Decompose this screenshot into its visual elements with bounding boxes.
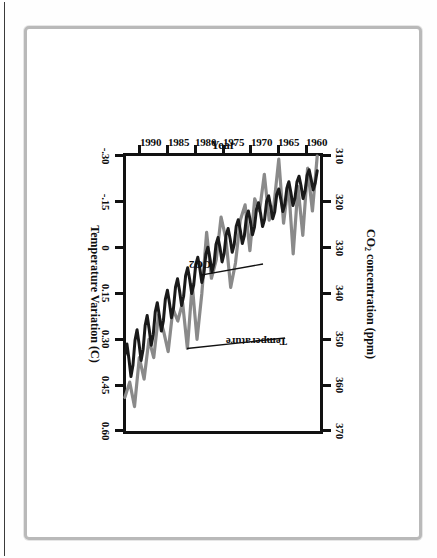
axis-tick bbox=[323, 200, 331, 203]
co2-tick-label: 360 bbox=[334, 377, 346, 393]
co2-axis-title: CO2 concentration (ppm) bbox=[363, 229, 378, 359]
co2-axis-title-prefix: CO bbox=[364, 229, 378, 247]
temperature-annotation-label: Temperature bbox=[226, 336, 287, 348]
co2-tick-label: 330 bbox=[334, 240, 346, 256]
year-tick-label: 1970 bbox=[251, 136, 272, 148]
year-tick-label: 1985 bbox=[168, 136, 189, 148]
temperature-tick-label: -.15 bbox=[100, 194, 112, 211]
axis-tick bbox=[115, 200, 123, 203]
axis-tick bbox=[115, 338, 123, 341]
axis-tick bbox=[323, 338, 331, 341]
year-tick-label: 1960 bbox=[306, 136, 327, 148]
plot-curves bbox=[123, 147, 329, 434]
temperature-tick-label: -.30 bbox=[100, 148, 112, 165]
figure-page: Temperature Variation (C) CO2 concentrat… bbox=[0, 0, 437, 558]
year-tick-label: 1975 bbox=[223, 136, 244, 148]
axis-tick bbox=[115, 246, 123, 249]
year-tick-label: 1965 bbox=[278, 136, 299, 148]
axis-tick bbox=[115, 155, 123, 158]
axis-tick bbox=[323, 155, 331, 158]
axis-tick bbox=[323, 292, 331, 295]
year-tick-label: 1990 bbox=[140, 136, 161, 148]
temperature-tick-label: 0.15 bbox=[100, 284, 112, 302]
axis-tick bbox=[115, 384, 123, 387]
figure-frame: Temperature Variation (C) CO2 concentrat… bbox=[24, 26, 422, 540]
axis-tick bbox=[323, 246, 331, 249]
axis-tick bbox=[323, 384, 331, 387]
axis-tick bbox=[115, 430, 123, 433]
co2-tick-label: 320 bbox=[334, 194, 346, 210]
co2-tick-label: 350 bbox=[334, 331, 346, 347]
temperature-tick-label: 0.60 bbox=[100, 422, 112, 440]
chart: Temperature Variation (C) CO2 concentrat… bbox=[75, 140, 371, 476]
co2-axis-title-suffix: concentration (ppm) bbox=[364, 251, 378, 359]
page-edge-line bbox=[4, 2, 5, 556]
co2-annotation-label: CO2 bbox=[189, 259, 211, 271]
temperature-tick-label: 0 bbox=[100, 245, 112, 250]
rotated-chart-container: Temperature Variation (C) CO2 concentrat… bbox=[75, 140, 371, 476]
temperature-tick-label: 0.45 bbox=[100, 376, 112, 394]
axis-tick bbox=[323, 430, 331, 433]
temperature-series-path bbox=[125, 156, 317, 407]
year-tick-label: 1980 bbox=[195, 136, 216, 148]
plot-area bbox=[123, 153, 323, 434]
temperature-tick-label: 0.30 bbox=[100, 330, 112, 348]
axis-tick bbox=[115, 292, 123, 295]
co2-tick-label: 340 bbox=[334, 286, 346, 302]
co2-tick-label: 310 bbox=[334, 148, 346, 164]
co2-tick-label: 370 bbox=[334, 423, 346, 439]
